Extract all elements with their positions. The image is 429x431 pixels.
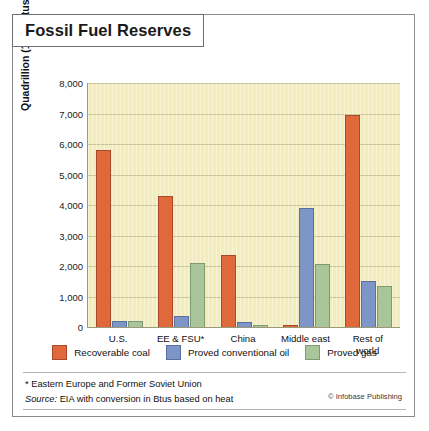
bar-group [338,83,400,327]
bar-group [88,83,150,327]
bar-oil [237,322,252,327]
bar-gas [128,321,143,327]
y-axis-tick: 0 [39,322,87,333]
legend-swatch-oil [166,345,181,360]
y-axis-tick: 1,000 [39,291,87,302]
footnote-asterisk: * Eastern Europe and Former Soviet Union [25,377,404,392]
bar-coal [345,115,360,327]
y-axis-tick: 8,000 [39,78,87,89]
bar-coal [283,325,298,327]
bar-group [275,83,337,327]
y-axis-tick: 5,000 [39,169,87,180]
y-axis-tick: 4,000 [39,200,87,211]
divider-top [23,372,406,373]
bar-oil [112,321,127,327]
page-title: Fossil Fuel Reserves [25,21,191,40]
bar-oil [361,281,376,327]
bar-oil [174,316,189,327]
chart-legend: Recoverable coalProved conventional oilP… [13,345,416,360]
divider-bottom [23,409,406,410]
y-axis-label-prefix: Quadrillion (10 [19,37,31,111]
legend-item-oil: Proved conventional oil [166,345,289,360]
y-axis-tick: 2,000 [39,261,87,272]
legend-label: Proved conventional oil [188,347,289,358]
chart-title-box: Fossil Fuel Reserves [12,14,204,47]
plot-area [87,83,400,328]
bar-coal [158,196,173,327]
bar-group [150,83,212,327]
publisher-credit: © Infobase Publishing [328,392,402,401]
y-axis-tick: 3,000 [39,230,87,241]
bar-group [213,83,275,327]
legend-label: Recoverable coal [74,347,150,358]
legend-swatch-gas [305,345,320,360]
bar-coal [221,255,236,327]
plot-area-wrapper: Quadrillion (1015) Btus 01,0002,0003,000… [13,53,416,338]
legend-label: Proved gas [327,347,377,358]
footnotes: * Eastern Europe and Former Soviet Union… [25,377,404,406]
chart-figure: Fossil Fuel Reserves Quadrillion (1015) … [12,14,415,417]
bar-gas [253,325,268,327]
legend-item-coal: Recoverable coal [52,345,150,360]
y-axis-tick: 6,000 [39,139,87,150]
bar-oil [299,208,314,327]
bar-gas [315,264,330,327]
bar-groups [88,83,400,327]
y-axis-tick: 7,000 [39,108,87,119]
bar-gas [377,286,392,327]
bar-gas [190,263,205,327]
legend-item-gas: Proved gas [305,345,377,360]
y-axis-ticks: 01,0002,0003,0004,0005,0006,0007,0008,00… [39,83,87,327]
legend-swatch-coal [52,345,67,360]
source-text: EIA with conversion in Btus based on hea… [57,394,233,404]
bar-coal [96,150,111,327]
source-label: Source: [25,394,57,404]
